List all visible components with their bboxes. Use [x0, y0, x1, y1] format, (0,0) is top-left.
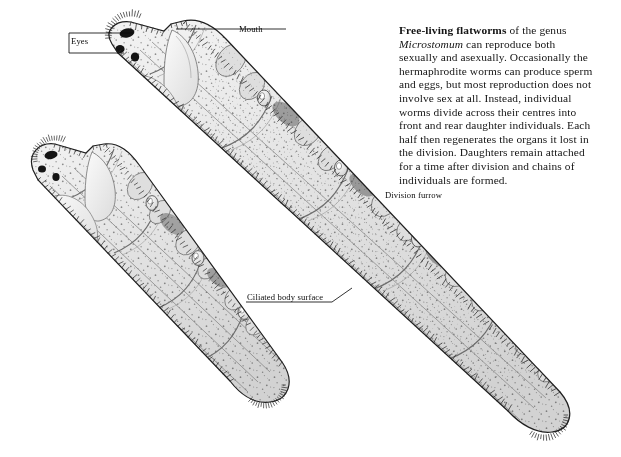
genus-name: Microstomum [399, 38, 463, 50]
label-division-furrow: Division furrow [385, 190, 442, 200]
label-eyes: Eyes [71, 36, 88, 46]
label-ciliated-body-surface: Ciliated body surface [247, 292, 323, 302]
caption-rest-2: can reproduce both sexually and asexuall… [399, 38, 592, 186]
caption-text: Free-living flatworms of the genus Micro… [399, 24, 595, 187]
illustration-canvas: Free-living flatworms of the genus Micro… [0, 0, 621, 457]
label-mouth: Mouth [239, 24, 263, 34]
caption-rest-1: of the genus [507, 24, 567, 36]
caption-lead: Free-living flatworms [399, 24, 507, 36]
